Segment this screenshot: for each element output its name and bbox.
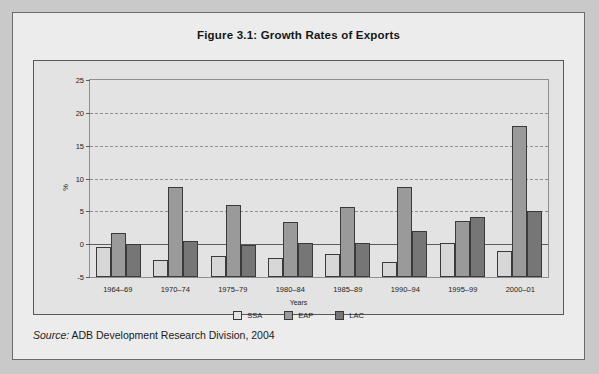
legend-item-lac[interactable]: LAC — [335, 311, 364, 320]
legend-label: SSA — [247, 311, 262, 320]
bar-eap[interactable] — [111, 233, 126, 277]
bar-set — [205, 113, 262, 277]
bar-group — [376, 80, 433, 277]
figure-title: Figure 3.1: Growth Rates of Exports — [13, 29, 584, 41]
bar-set — [376, 113, 433, 277]
bar-set — [90, 113, 147, 277]
legend-item-eap[interactable]: EAP — [284, 311, 313, 320]
bar-lac[interactable] — [126, 244, 141, 277]
source-label: Source: — [33, 329, 69, 341]
bar-lac[interactable] — [183, 241, 198, 277]
bar-group — [262, 80, 319, 277]
x-axis-tick-label: 1995–99 — [434, 285, 492, 294]
x-axis-tick-label: 1985–89 — [319, 285, 377, 294]
bar-lac[interactable] — [527, 211, 542, 277]
bar-lac[interactable] — [412, 231, 427, 277]
bar-lac[interactable] — [241, 245, 256, 278]
legend-label: EAP — [298, 311, 313, 320]
bar-group — [319, 80, 376, 277]
bar-set — [491, 113, 548, 277]
bar-ssa[interactable] — [153, 260, 168, 277]
y-axis-label: % — [61, 184, 70, 191]
x-axis-tick-label: 1964–69 — [89, 285, 147, 294]
bar-ssa[interactable] — [268, 258, 283, 277]
x-axis-tick-label: 1975–79 — [204, 285, 262, 294]
bar-set — [319, 113, 376, 277]
x-axis-tick-labels: 1964–691970–741975–791980–841985–891990–… — [89, 285, 549, 294]
bar-set — [262, 113, 319, 277]
bar-set — [147, 113, 204, 277]
bar-eap[interactable] — [512, 126, 527, 277]
bar-ssa[interactable] — [382, 262, 397, 277]
source-text: ADB Development Research Division, 2004 — [69, 329, 274, 341]
bar-eap[interactable] — [226, 205, 241, 277]
bar-lac[interactable] — [355, 243, 370, 277]
bar-eap[interactable] — [455, 221, 470, 277]
bar-ssa[interactable] — [96, 247, 111, 277]
bar-eap[interactable] — [397, 187, 412, 277]
bar-group — [90, 80, 147, 277]
bar-set — [434, 113, 491, 277]
bar-group — [434, 80, 491, 277]
x-axis-tick-label: 2000–01 — [492, 285, 550, 294]
bar-ssa[interactable] — [325, 254, 340, 277]
figure-page: Figure 3.1: Growth Rates of Exports % 25… — [12, 12, 585, 360]
y-axis-tick-mark — [86, 277, 90, 278]
legend-swatch-icon — [335, 311, 344, 320]
source-caption: Source: ADB Development Research Divisio… — [33, 329, 275, 341]
legend-swatch-icon — [284, 311, 293, 320]
x-axis-tick-label: 1990–94 — [377, 285, 435, 294]
bar-group — [491, 80, 548, 277]
bar-eap[interactable] — [283, 222, 298, 277]
x-axis-label: Years — [34, 299, 563, 306]
chart-canvas: % 2520151050-5 1964–691970–741975–791980… — [34, 61, 563, 314]
bar-lac[interactable] — [298, 243, 313, 277]
bar-eap[interactable] — [340, 207, 355, 277]
plot-area: 2520151050-5 — [89, 79, 549, 278]
chart-container: % 2520151050-5 1964–691970–741975–791980… — [33, 60, 564, 315]
bar-ssa[interactable] — [211, 256, 226, 277]
bar-lac[interactable] — [470, 217, 485, 277]
legend-label: LAC — [349, 311, 364, 320]
x-axis-tick-label: 1980–84 — [262, 285, 320, 294]
bar-group — [205, 80, 262, 277]
bar-eap[interactable] — [168, 187, 183, 277]
x-axis-tick-label: 1970–74 — [147, 285, 205, 294]
bar-ssa[interactable] — [440, 243, 455, 277]
chart-legend: SSAEAPLAC — [34, 311, 563, 320]
legend-item-ssa[interactable]: SSA — [233, 311, 262, 320]
bar-groups — [90, 80, 548, 277]
bar-ssa[interactable] — [497, 251, 512, 277]
legend-swatch-icon — [233, 311, 242, 320]
bar-group — [147, 80, 204, 277]
